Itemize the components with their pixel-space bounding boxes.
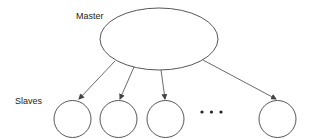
master-node (100, 8, 218, 70)
edge-arrow-slave-2 (120, 67, 134, 99)
slaves-label: Slaves (15, 96, 43, 106)
edge-arrow-slave-1 (79, 61, 115, 99)
slave-3-node (147, 101, 184, 138)
slave-1-node (54, 101, 91, 138)
slave-n-node (259, 101, 296, 138)
slave-2-node (100, 101, 137, 138)
edge-arrow-slave-3 (161, 70, 165, 99)
master-slave-diagram: Master Slaves (0, 0, 309, 139)
ellipsis-dots (200, 110, 222, 113)
master-label: Master (76, 11, 104, 21)
slave-nodes (54, 101, 296, 138)
ellipsis-dot (210, 110, 213, 113)
ellipsis-dot (200, 110, 203, 113)
edge-arrow-slave-n (203, 60, 276, 99)
ellipsis-dot (219, 110, 222, 113)
edges (79, 60, 276, 99)
